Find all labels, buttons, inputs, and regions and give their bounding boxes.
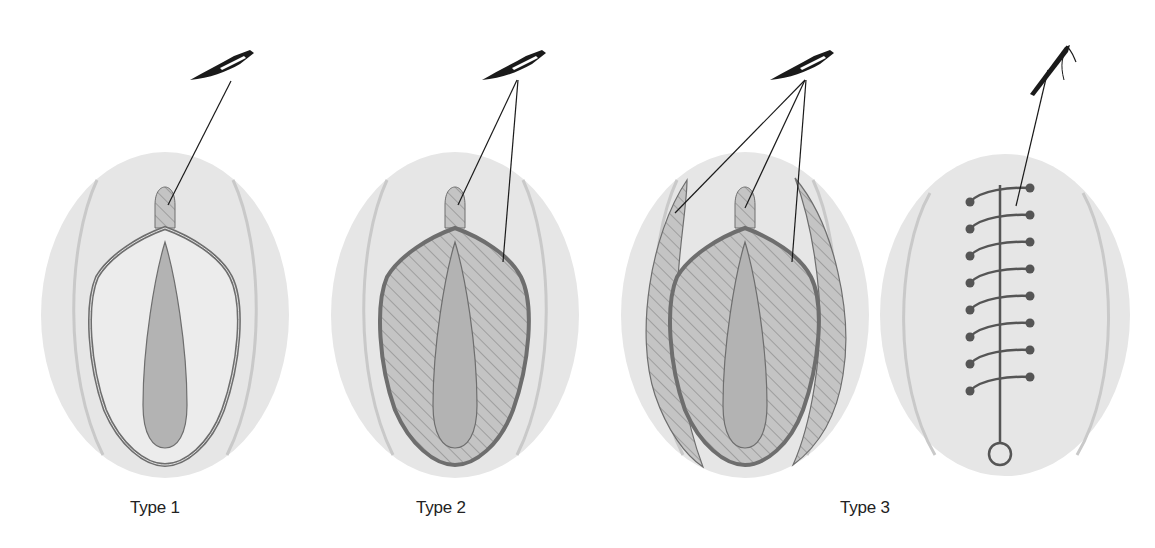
scalpel-icon	[770, 50, 834, 80]
panel-closure	[880, 154, 1130, 476]
scalpel-icon	[190, 50, 254, 80]
type-diagram	[0, 0, 1155, 548]
panel-type-2	[331, 152, 579, 478]
label-type-3: Type 3	[840, 498, 890, 518]
label-type-2: Type 2	[416, 498, 466, 518]
scalpel-icon	[482, 50, 546, 80]
panel-type-3	[621, 152, 869, 478]
panel-type-1	[41, 152, 289, 478]
label-type-1: Type 1	[130, 498, 180, 518]
